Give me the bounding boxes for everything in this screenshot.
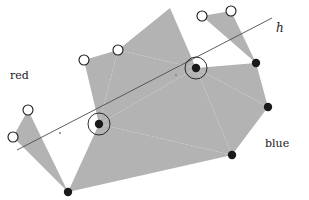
center-mark — [59, 132, 61, 134]
label-blue: blue — [265, 137, 289, 150]
red-point — [79, 55, 89, 65]
blue-point — [228, 151, 236, 159]
figure-canvas: red blue h — [0, 0, 309, 200]
label-line-h: h — [276, 21, 284, 35]
diagram-svg: red blue h — [0, 0, 309, 200]
triangle — [13, 110, 68, 192]
red-point — [226, 6, 236, 16]
blue-point — [252, 59, 260, 67]
blue-point — [95, 120, 103, 128]
blue-point — [192, 64, 200, 72]
red-point — [197, 11, 207, 21]
label-red: red — [10, 69, 29, 82]
red-point — [23, 105, 33, 115]
blue-point — [64, 188, 72, 196]
triangle — [202, 11, 256, 63]
triangle-group — [13, 8, 268, 192]
red-point — [113, 45, 123, 55]
center-mark — [175, 74, 177, 76]
blue-point — [264, 103, 272, 111]
red-point — [8, 132, 18, 142]
